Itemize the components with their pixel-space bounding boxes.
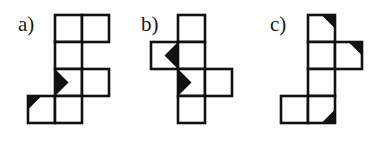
net-cell — [308, 42, 335, 69]
cube-net-figure: a) b) c) — [0, 0, 378, 152]
net-cell — [308, 69, 335, 96]
net-drawing-c — [0, 0, 378, 152]
net-cell — [281, 96, 308, 123]
